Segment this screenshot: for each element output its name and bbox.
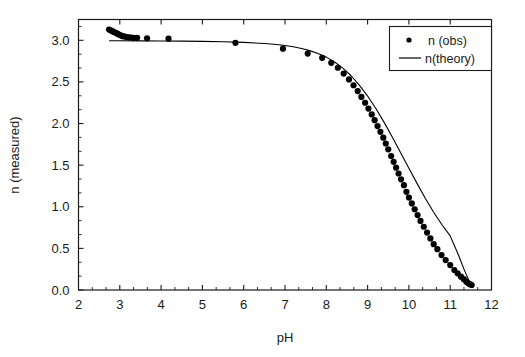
data-point (424, 229, 430, 235)
data-point (328, 60, 334, 66)
chart-canvas: 23456789101112 0.00.51.01.52.02.53.0 pH … (0, 0, 525, 357)
x-tick-label: 9 (364, 297, 371, 312)
chart-figure: 23456789101112 0.00.51.01.52.02.53.0 pH … (0, 0, 525, 357)
data-point (469, 282, 475, 288)
legend-marker-dot-icon (406, 37, 411, 42)
data-point (305, 51, 311, 57)
y-tick-label: 1.5 (51, 158, 69, 173)
data-point (393, 165, 399, 171)
data-point (427, 235, 433, 241)
data-point (438, 252, 444, 258)
x-tick-label: 2 (75, 297, 82, 312)
x-tick-label: 5 (199, 297, 206, 312)
data-point (443, 257, 449, 263)
x-tick-label: 12 (484, 297, 498, 312)
x-axis-title: pH (277, 330, 294, 345)
data-point (417, 218, 423, 224)
data-point (395, 170, 401, 176)
data-point (403, 189, 409, 195)
data-point (365, 105, 371, 111)
data-point (421, 224, 427, 230)
x-tick-label: 7 (281, 297, 288, 312)
x-tick-label: 6 (240, 297, 247, 312)
data-point (346, 76, 352, 82)
data-point (350, 82, 356, 88)
x-tick-label: 10 (402, 297, 416, 312)
data-point (144, 35, 150, 41)
data-point (165, 36, 171, 42)
data-point (431, 241, 437, 247)
y-tick-label: 0.0 (51, 283, 69, 298)
x-tick-label: 8 (323, 297, 330, 312)
data-point (388, 153, 394, 159)
data-point (398, 176, 404, 182)
data-point (391, 159, 397, 165)
data-point (369, 111, 375, 117)
data-point (409, 200, 415, 206)
x-tick-label: 11 (443, 297, 457, 312)
y-tick-label: 0.5 (51, 241, 69, 256)
data-point (434, 246, 440, 252)
data-point (401, 182, 407, 188)
data-point (447, 262, 453, 268)
data-point (377, 129, 383, 135)
data-point (341, 71, 347, 77)
data-point (319, 55, 325, 61)
data-point (414, 212, 420, 218)
data-point (406, 195, 412, 201)
y-axis-title: n (measured) (7, 116, 22, 193)
data-point (280, 46, 286, 52)
data-point (232, 40, 238, 46)
legend-label-obs: n (obs) (428, 34, 467, 48)
data-point (372, 117, 378, 123)
data-point (380, 135, 386, 141)
data-point (134, 35, 140, 41)
y-tick-label: 2.0 (51, 116, 69, 131)
data-point (374, 123, 380, 129)
x-tick-label: 4 (157, 297, 164, 312)
data-point (385, 146, 391, 152)
x-tick-label: 3 (116, 297, 123, 312)
y-tick-label: 3.0 (51, 33, 69, 48)
data-point (358, 94, 364, 100)
data-point (355, 88, 361, 94)
data-point (412, 206, 418, 212)
y-tick-label: 2.5 (51, 74, 69, 89)
chart-legend: n (obs) n(theory) (390, 27, 492, 71)
legend-label-theory: n(theory) (425, 52, 475, 66)
y-tick-label: 1.0 (51, 199, 69, 214)
data-point (362, 100, 368, 106)
data-point (383, 140, 389, 146)
data-point (335, 65, 341, 71)
